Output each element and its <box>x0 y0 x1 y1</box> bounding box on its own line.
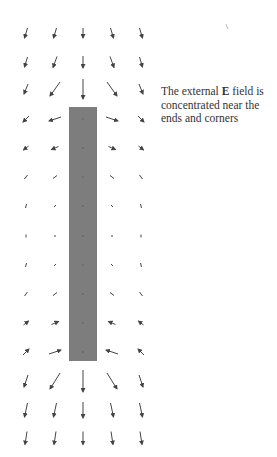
field-arrow <box>138 349 144 355</box>
field-arrow <box>25 57 28 67</box>
field-arrow <box>49 350 61 354</box>
field-arrow <box>107 82 117 96</box>
field-arrow <box>52 147 59 150</box>
field-arrow <box>23 349 29 355</box>
field-arrows <box>23 28 144 445</box>
field-arrow <box>110 57 114 68</box>
field-arrow <box>53 293 57 296</box>
field-arrow <box>139 84 143 94</box>
caption: The external E field is concentrated nea… <box>161 85 277 126</box>
field-arrow <box>25 175 28 179</box>
bar-dot <box>82 147 84 149</box>
field-arrow <box>26 204 27 208</box>
field-arrow <box>107 373 117 389</box>
field-arrow <box>53 176 57 179</box>
field-arrow <box>140 175 143 179</box>
bar-dot <box>82 176 84 178</box>
field-arrow <box>24 375 28 387</box>
bar-dot <box>82 351 84 353</box>
field-arrow <box>53 57 57 68</box>
field-arrow <box>111 205 113 207</box>
field-arrow <box>26 263 27 267</box>
field-arrow <box>106 117 118 121</box>
field-arrow <box>54 28 57 38</box>
field-arrow <box>140 28 143 38</box>
bar-dot <box>82 322 84 324</box>
field-arrow <box>54 205 56 207</box>
field-arrow <box>140 432 142 445</box>
field-arrow <box>25 28 28 38</box>
field-arrow <box>24 84 28 94</box>
field-diagram <box>0 0 277 457</box>
bar-dot <box>82 118 84 120</box>
field-arrow <box>140 403 143 417</box>
field-arrow <box>139 321 144 325</box>
field-arrow <box>111 28 114 38</box>
bar-dot <box>82 235 84 237</box>
field-arrow <box>25 292 28 296</box>
field-arrow <box>109 322 116 325</box>
field-arrow <box>54 403 57 417</box>
field-arrow <box>138 116 144 122</box>
field-arrow <box>111 403 114 417</box>
field-arrow <box>139 146 144 150</box>
field-arrow <box>24 146 29 150</box>
stray-mark <box>226 24 228 29</box>
field-arrow <box>24 321 29 325</box>
field-arrow <box>25 403 28 417</box>
field-arrow <box>106 350 118 354</box>
field-arrow <box>52 322 59 325</box>
field-arrow <box>54 264 56 266</box>
field-arrow <box>54 432 56 445</box>
field-arrow <box>25 432 27 445</box>
bar-dot <box>82 293 84 295</box>
field-arrow <box>111 432 113 445</box>
field-arrow <box>23 116 29 122</box>
field-arrow <box>111 264 113 266</box>
field-arrow <box>110 293 114 296</box>
field-arrow <box>141 263 142 267</box>
field-arrow <box>50 373 60 389</box>
field-arrow <box>50 82 60 96</box>
field-arrow <box>140 292 143 296</box>
bar-dot <box>82 264 84 266</box>
field-arrow <box>141 204 142 208</box>
bar-dot <box>82 205 84 207</box>
field-arrow <box>139 375 143 387</box>
field-arrow <box>109 147 116 150</box>
field-arrow <box>140 57 143 67</box>
field-arrow <box>110 176 114 179</box>
field-arrow <box>49 117 61 121</box>
